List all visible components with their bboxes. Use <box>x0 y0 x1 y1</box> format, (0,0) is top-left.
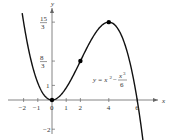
axes <box>8 8 158 134</box>
x-axis-arrow-icon <box>153 98 158 102</box>
function-curve <box>22 13 146 140</box>
x-tick-label: −2 <box>19 104 27 112</box>
tick-labels: xy−2−101246153831−2y = x2−x36 <box>19 0 166 134</box>
chart: xy−2−101246153831−2y = x2−x36 <box>0 0 169 140</box>
x-axis-label: x <box>161 97 166 105</box>
y-tick-label: 1 <box>46 82 50 90</box>
data-point <box>107 20 111 24</box>
equation-lhs: y = x <box>92 76 108 84</box>
x-tick-label: 2 <box>78 104 82 112</box>
y-tick-label-numerator: 8 <box>40 54 44 62</box>
y-axis-arrow-icon <box>50 8 54 13</box>
x-tick-label: 0 <box>50 104 54 112</box>
equation-denominator: 6 <box>120 81 124 89</box>
y-tick-label: −2 <box>43 126 51 134</box>
plot-area: xy−2−101246153831−2y = x2−x36 <box>0 0 169 140</box>
x-tick-label: 4 <box>107 104 111 112</box>
highlighted-points <box>50 20 111 102</box>
equation-exponent: 3 <box>123 71 126 76</box>
data-point <box>78 59 82 63</box>
x-tick-label: 1 <box>64 104 68 112</box>
equation-label: y = x2−x36 <box>92 71 127 89</box>
equation-minus: − <box>113 76 117 84</box>
y-tick-label-denominator: 3 <box>41 23 45 31</box>
data-point <box>50 98 54 102</box>
y-axis-label: y <box>50 0 55 8</box>
x-tick-label: −1 <box>33 104 41 112</box>
y-tick-label-denominator: 3 <box>41 62 45 70</box>
y-tick-label-numerator: 15 <box>40 15 48 23</box>
x-tick-label: 6 <box>135 104 139 112</box>
